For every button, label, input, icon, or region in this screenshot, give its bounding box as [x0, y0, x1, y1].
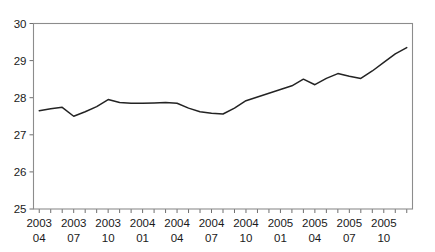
line-chart: 252627282930 200304200307200310200401200…: [0, 0, 435, 252]
x-axis-tick-label-month: 07: [343, 232, 356, 244]
x-axis-tick-label-month: 04: [171, 232, 184, 244]
y-axis-tick-label: 29: [14, 55, 27, 67]
y-axis-tick-label: 30: [14, 18, 27, 30]
x-axis-tick-label-year: 2004: [199, 217, 225, 229]
y-axis-tick-label: 28: [14, 92, 27, 104]
x-axis-tick-label-year: 2005: [337, 217, 363, 229]
y-axis-tick-label: 26: [14, 166, 27, 178]
x-axis-tick-label-year: 2004: [233, 217, 259, 229]
y-axis-tick-label: 27: [14, 129, 27, 141]
chart-background: [0, 0, 435, 252]
x-axis-tick-label-month: 07: [67, 232, 80, 244]
x-axis-tick-label-month: 07: [205, 232, 218, 244]
x-axis-tick-label-month: 04: [308, 232, 321, 244]
x-axis-tick-label-month: 10: [102, 232, 115, 244]
x-axis-tick-label-year: 2005: [371, 217, 397, 229]
chart-canvas: 252627282930 200304200307200310200401200…: [0, 0, 435, 252]
x-axis-tick-label-year: 2005: [268, 217, 294, 229]
x-axis-tick-label-year: 2004: [164, 217, 190, 229]
x-axis-tick-label-month: 10: [240, 232, 253, 244]
x-axis-tick-label-year: 2003: [26, 217, 52, 229]
x-axis-tick-label-month: 04: [33, 232, 46, 244]
y-axis-tick-label: 25: [14, 203, 27, 215]
x-axis-tick-label-year: 2003: [61, 217, 87, 229]
x-axis-tick-label-year: 2004: [130, 217, 156, 229]
x-axis-tick-label-month: 01: [136, 232, 149, 244]
x-axis-tick-label-year: 2003: [95, 217, 121, 229]
x-axis-tick-label-month: 10: [377, 232, 390, 244]
x-axis-tick-label-month: 01: [274, 232, 287, 244]
x-axis-tick-label-year: 2005: [302, 217, 328, 229]
